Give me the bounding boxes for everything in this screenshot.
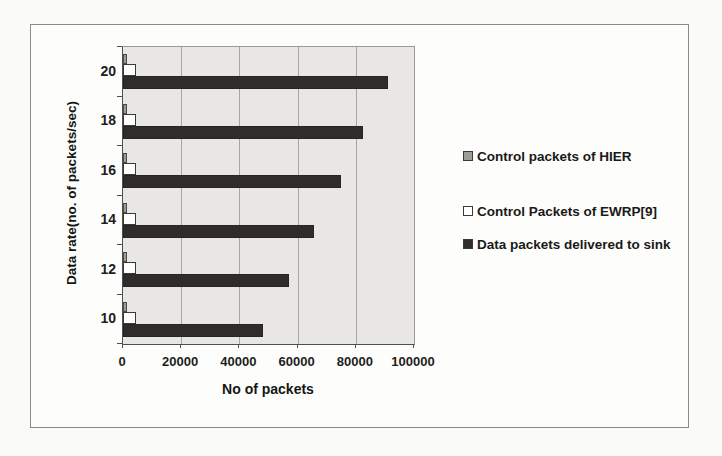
bar-control-packets-of-hier xyxy=(123,302,127,312)
bar-data-packets-delivered-to-sink xyxy=(123,76,388,89)
bar-control-packets-of-ewrp-9- xyxy=(123,163,136,175)
bar-control-packets-of-hier xyxy=(123,54,127,64)
x-tick-mark xyxy=(180,344,181,348)
y-tick-mark xyxy=(117,294,122,295)
y-tick-label: 14 xyxy=(82,212,116,226)
bar-control-packets-of-hier xyxy=(123,104,127,114)
bar-control-packets-of-hier xyxy=(123,252,127,262)
bar-control-packets-of-ewrp-9- xyxy=(123,312,136,324)
bar-data-packets-delivered-to-sink xyxy=(123,175,341,188)
x-tick-label: 0 xyxy=(118,354,125,369)
x-tick-label: 60000 xyxy=(279,354,315,369)
legend-swatch-icon xyxy=(463,151,473,161)
x-tick-label: 40000 xyxy=(220,354,256,369)
legend-swatch-icon xyxy=(463,206,473,216)
y-tick-mark xyxy=(117,46,122,47)
legend-entry: Control Packets of EWRP[9] xyxy=(463,202,671,221)
bar-control-packets-of-ewrp-9- xyxy=(123,213,136,225)
x-tick-mark xyxy=(297,344,298,348)
gridline xyxy=(181,47,182,344)
bar-control-packets-of-hier xyxy=(123,203,127,213)
x-tick-label: 20000 xyxy=(162,354,198,369)
x-tick-mark xyxy=(122,344,123,348)
y-tick-mark xyxy=(117,145,122,146)
legend-swatch-icon xyxy=(463,239,473,249)
gridline xyxy=(298,47,299,344)
y-tick-mark xyxy=(117,96,122,97)
legend-label: Control Packets of EWRP[9] xyxy=(477,202,657,221)
x-axis-title: No of packets xyxy=(222,381,314,397)
bar-control-packets-of-ewrp-9- xyxy=(123,114,136,126)
screenshot: Data rate(no. of packets/sec) No of pack… xyxy=(0,0,722,456)
y-tick-label: 18 xyxy=(82,113,116,127)
x-tick-mark xyxy=(355,344,356,348)
x-tick-label: 100000 xyxy=(391,354,434,369)
y-tick-mark xyxy=(117,195,122,196)
y-tick-label: 12 xyxy=(82,262,116,276)
gridline xyxy=(239,47,240,344)
y-axis-title: Data rate(no. of packets/sec) xyxy=(64,101,79,285)
gridline xyxy=(356,47,357,344)
x-tick-label: 80000 xyxy=(337,354,373,369)
y-tick-mark xyxy=(117,244,122,245)
bar-control-packets-of-hier xyxy=(123,153,127,163)
legend-label: Control packets of HIER xyxy=(477,147,632,166)
bar-data-packets-delivered-to-sink xyxy=(123,126,363,139)
bar-data-packets-delivered-to-sink xyxy=(123,324,263,337)
legend: Control packets of HIERControl Packets o… xyxy=(463,147,671,254)
bar-data-packets-delivered-to-sink xyxy=(123,274,289,287)
legend-label: Data packets delivered to sink xyxy=(477,235,671,254)
x-tick-mark xyxy=(238,344,239,348)
y-tick-label: 20 xyxy=(82,64,116,78)
bar-control-packets-of-ewrp-9- xyxy=(123,262,136,274)
y-tick-label: 16 xyxy=(82,163,116,177)
y-tick-label: 10 xyxy=(82,311,116,325)
legend-entry: Data packets delivered to sink xyxy=(463,235,671,254)
plot-area xyxy=(122,46,415,345)
bar-data-packets-delivered-to-sink xyxy=(123,225,314,238)
legend-entry: Control packets of HIER xyxy=(463,147,671,166)
chart-frame: Data rate(no. of packets/sec) No of pack… xyxy=(30,24,689,428)
bar-control-packets-of-ewrp-9- xyxy=(123,64,136,76)
x-tick-mark xyxy=(413,344,414,348)
